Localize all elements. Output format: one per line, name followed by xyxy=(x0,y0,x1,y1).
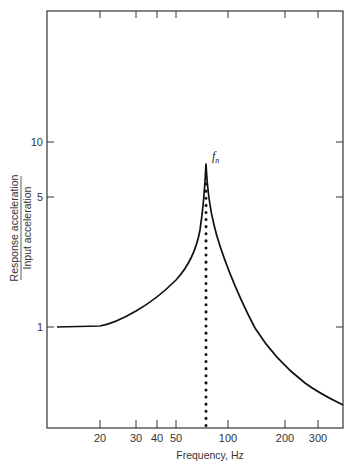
chart-canvas: 20 30 40 50 100 200 300 1 5 10 Frequency… xyxy=(0,0,351,464)
y-axis-numerator: Response acceleration xyxy=(8,174,20,281)
x-tick-labels: 20 30 40 50 100 200 300 xyxy=(94,432,327,444)
x-tick-50: 50 xyxy=(170,432,182,444)
x-tick-200: 200 xyxy=(276,432,294,444)
y-axis-title: Response acceleration Input acceleration xyxy=(8,174,33,281)
y-ticks-right xyxy=(336,142,343,327)
x-ticks-top xyxy=(100,11,318,18)
y-axis-denominator: Input acceleration xyxy=(21,186,33,269)
x-ticks-bottom xyxy=(100,420,318,428)
y-tick-10: 10 xyxy=(31,136,43,148)
fn-annotation: fn xyxy=(212,149,219,165)
x-tick-300: 300 xyxy=(309,432,327,444)
x-axis-title: Frequency, Hz xyxy=(176,449,244,461)
y-tick-1: 1 xyxy=(37,321,43,333)
response-curve xyxy=(57,164,343,405)
x-tick-30: 30 xyxy=(130,432,142,444)
x-tick-40: 40 xyxy=(151,432,163,444)
y-tick-5: 5 xyxy=(37,191,43,203)
x-tick-20: 20 xyxy=(94,432,106,444)
fn-subscript: n xyxy=(215,156,219,165)
plot-frame xyxy=(47,11,343,428)
x-tick-100: 100 xyxy=(219,432,237,444)
y-ticks-left xyxy=(47,142,54,327)
